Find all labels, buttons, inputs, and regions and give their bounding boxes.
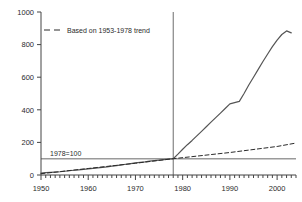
y-tick-label: 400 bbox=[21, 106, 34, 115]
x-tick-label: 1970 bbox=[127, 184, 144, 193]
line-chart: 02004006008001000 1950196019701980199020… bbox=[0, 0, 302, 202]
y-tick-label: 0 bbox=[30, 171, 34, 180]
y-tick-label: 600 bbox=[21, 73, 34, 82]
x-tick-label: 2000 bbox=[269, 184, 286, 193]
y-tick-label: 1000 bbox=[17, 8, 34, 17]
x-tick-label: 1960 bbox=[80, 184, 97, 193]
annotation-layer: 1978=100 bbox=[50, 150, 81, 157]
x-tick-label: 1980 bbox=[174, 184, 191, 193]
x-tick-label: 1990 bbox=[222, 184, 239, 193]
y-tick-label: 200 bbox=[21, 138, 34, 147]
baseline-annotation-label: 1978=100 bbox=[50, 150, 81, 157]
chart-container: 02004006008001000 1950196019701980199020… bbox=[0, 0, 302, 202]
y-tick-label: 800 bbox=[21, 40, 34, 49]
legend-label-trend: Based on 1953-1978 trend bbox=[67, 27, 150, 34]
x-tick-label: 1950 bbox=[33, 184, 50, 193]
